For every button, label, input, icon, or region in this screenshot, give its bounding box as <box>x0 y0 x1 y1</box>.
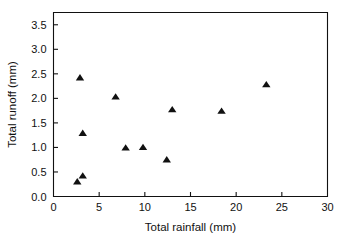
data-point-marker <box>163 156 171 162</box>
y-tick-label: 1.5 <box>31 117 46 129</box>
data-point-marker <box>262 81 270 87</box>
data-point-markers <box>73 74 270 184</box>
x-tick-label: 20 <box>230 201 242 213</box>
x-tick-label: 30 <box>321 201 333 213</box>
y-axis-tick-labels: 0.00.51.01.52.02.53.03.5 <box>31 19 46 203</box>
data-point-marker <box>111 93 119 99</box>
x-tick-label: 10 <box>139 201 151 213</box>
y-axis-title: Total runoff (mm) <box>6 61 18 148</box>
x-tick-label: 0 <box>50 201 56 213</box>
y-tick-label: 2.0 <box>31 92 46 104</box>
data-point-marker <box>168 106 176 112</box>
y-tick-label: 0.5 <box>31 166 46 178</box>
data-point-marker <box>139 144 147 150</box>
scatter-chart-figure: 051015202530 0.00.51.01.52.02.53.03.5 To… <box>0 0 344 243</box>
data-point-marker <box>73 178 81 184</box>
data-point-marker <box>79 172 87 178</box>
x-axis-tick-labels: 051015202530 <box>50 201 333 213</box>
axes-frame <box>54 13 328 197</box>
y-tick-label: 2.5 <box>31 68 46 80</box>
y-axis-ticks <box>54 25 59 172</box>
y-tick-label: 3.0 <box>31 43 46 55</box>
data-point-marker <box>217 107 225 113</box>
x-tick-label: 15 <box>184 201 196 213</box>
data-point-marker <box>76 74 84 80</box>
x-tick-label: 25 <box>276 201 288 213</box>
x-axis-title: Total rainfall (mm) <box>145 221 237 233</box>
y-tick-label: 3.5 <box>31 19 46 31</box>
x-axis-ticks <box>99 192 282 197</box>
y-tick-label: 0.0 <box>31 191 46 203</box>
x-tick-label: 5 <box>96 201 102 213</box>
chart-svg: 051015202530 0.00.51.01.52.02.53.03.5 To… <box>0 0 344 243</box>
y-tick-label: 1.0 <box>31 141 46 153</box>
data-point-marker <box>79 129 87 135</box>
axes-border <box>54 13 328 197</box>
data-point-marker <box>121 144 129 150</box>
